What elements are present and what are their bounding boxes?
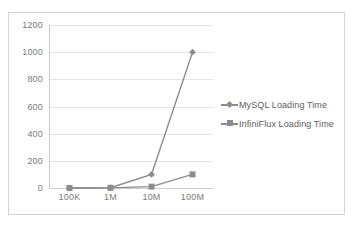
data-point-square-marker (108, 185, 114, 191)
data-point-diamond-marker (189, 49, 196, 56)
data-point-square-marker (149, 184, 155, 190)
legend-entry[interactable]: MySQL Loading Time (221, 95, 349, 114)
legend-label: InfiniFlux Loading Time (239, 119, 334, 129)
y-axis-tick-label: 600 (27, 102, 43, 112)
data-point-square-marker (67, 185, 73, 191)
series-line (70, 52, 193, 188)
legend-label: MySQL Loading Time (239, 100, 327, 110)
legend-diamond-marker-icon (221, 99, 238, 110)
series-layer (49, 25, 213, 188)
y-axis-tick-labels: 020040060080010001200 (3, 25, 43, 188)
legend-square-marker-icon (221, 118, 238, 129)
x-axis-tick-label: 1M (104, 192, 117, 202)
y-axis-tick-label: 800 (27, 74, 43, 84)
y-axis-tick-label: 1200 (22, 20, 43, 30)
y-axis-tick-label: 200 (27, 156, 43, 166)
y-axis-tick-label: 400 (27, 129, 43, 139)
y-axis-tick-label: 1000 (22, 47, 43, 57)
x-axis-tick-label: 100K (59, 192, 81, 202)
x-axis-tick-label: 100M (181, 192, 204, 202)
x-axis-tick-label: 10M (142, 192, 160, 202)
chart-container: 020040060080010001200 100K1M10M100M MySQ… (0, 0, 352, 229)
plot-area (49, 25, 213, 188)
data-point-square-marker (190, 171, 196, 177)
y-axis-tick-label: 0 (38, 183, 43, 193)
chart-frame: 020040060080010001200 100K1M10M100M MySQ… (8, 12, 345, 215)
data-point-diamond-marker (148, 171, 155, 178)
x-axis-tick-labels: 100K1M10M100M (49, 192, 213, 208)
legend-entry[interactable]: InfiniFlux Loading Time (221, 114, 349, 133)
chart-legend: MySQL Loading TimeInfiniFlux Loading Tim… (221, 95, 349, 133)
